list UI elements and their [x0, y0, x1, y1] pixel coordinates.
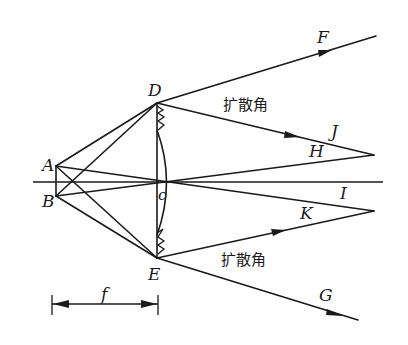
ray-a-e — [56, 166, 157, 258]
arrow-j-icon — [284, 131, 300, 138]
label-f: F — [316, 27, 330, 47]
label-h: H — [308, 141, 325, 161]
label-focal-length: f — [99, 284, 110, 304]
fresnel-teeth-bottom — [157, 229, 164, 254]
arrow-f-icon — [318, 50, 332, 57]
ray-d-f — [157, 36, 376, 103]
arrow-g-icon — [326, 309, 343, 316]
optics-diagram: A B D E c F J H I K G 扩散角 扩散角 f — [0, 0, 408, 345]
fresnel-teeth-top — [157, 106, 164, 130]
f-arrow-right-icon — [141, 300, 157, 308]
f-arrow-left-icon — [53, 300, 69, 308]
ray-b-c-h — [56, 155, 374, 196]
label-divergence-angle-top: 扩散角 — [223, 96, 268, 114]
ray-b-e — [56, 196, 157, 258]
label-divergence-angle-bottom: 扩散角 — [221, 251, 266, 269]
ray-a-d — [56, 103, 157, 166]
label-g: G — [319, 285, 333, 305]
label-c: c — [158, 186, 167, 204]
arrow-k-icon — [271, 229, 286, 236]
label-j: J — [328, 121, 339, 141]
label-e: E — [147, 264, 161, 284]
label-i: I — [339, 183, 347, 203]
label-b: B — [41, 191, 55, 211]
label-k: K — [299, 203, 314, 223]
ray-a-c-i — [56, 166, 374, 211]
label-d: D — [147, 80, 162, 100]
label-a: A — [40, 155, 54, 175]
